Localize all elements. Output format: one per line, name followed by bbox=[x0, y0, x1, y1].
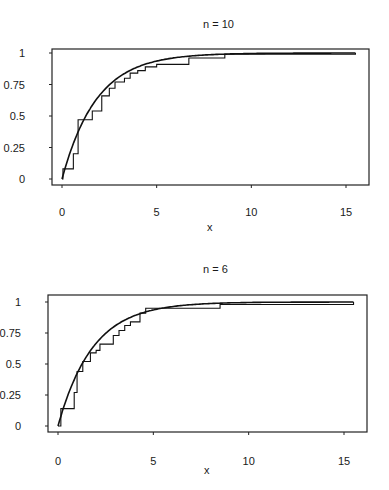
x-axis: 051015x bbox=[55, 432, 350, 476]
y-tick-label: 0.75 bbox=[0, 327, 21, 339]
y-tick-label: 0.25 bbox=[4, 142, 25, 154]
theoretical-cdf-curve bbox=[58, 302, 354, 426]
x-tick-label: 0 bbox=[59, 206, 65, 218]
x-tick-label: 10 bbox=[243, 455, 255, 467]
plot-frame bbox=[52, 49, 369, 185]
x-axis-label: x bbox=[207, 221, 213, 233]
chart-title: n = 6 bbox=[203, 263, 228, 275]
x-axis: 051015x bbox=[59, 185, 352, 233]
figure: n = 1000.250.50.751051015xn = 600.250.50… bbox=[0, 0, 389, 490]
y-tick-label: 0 bbox=[19, 173, 25, 185]
y-tick-label: 0 bbox=[15, 420, 21, 432]
x-tick-label: 0 bbox=[55, 455, 61, 467]
chart-panel-1: n = 1000.250.50.751051015x bbox=[4, 18, 369, 233]
x-tick-label: 15 bbox=[340, 206, 352, 218]
x-tick-label: 15 bbox=[338, 455, 350, 467]
chart-title: n = 10 bbox=[203, 18, 234, 30]
x-tick-label: 10 bbox=[245, 206, 257, 218]
x-tick-label: 5 bbox=[154, 206, 160, 218]
y-tick-label: 0.5 bbox=[10, 110, 25, 122]
y-axis: 00.250.50.751 bbox=[0, 296, 48, 432]
x-tick-label: 5 bbox=[150, 455, 156, 467]
y-tick-label: 1 bbox=[19, 47, 25, 59]
y-tick-label: 1 bbox=[15, 296, 21, 308]
y-axis: 00.250.50.751 bbox=[4, 47, 52, 185]
plot-frame bbox=[48, 295, 367, 432]
x-axis-label: x bbox=[204, 464, 210, 476]
y-tick-label: 0.75 bbox=[4, 79, 25, 91]
empirical-cdf-step bbox=[58, 302, 354, 426]
y-tick-label: 0.5 bbox=[6, 358, 21, 370]
y-tick-label: 0.25 bbox=[0, 389, 21, 401]
empirical-cdf-step bbox=[62, 53, 355, 179]
chart-panel-2: n = 600.250.50.751051015x bbox=[0, 263, 367, 476]
theoretical-cdf-curve bbox=[62, 53, 356, 179]
